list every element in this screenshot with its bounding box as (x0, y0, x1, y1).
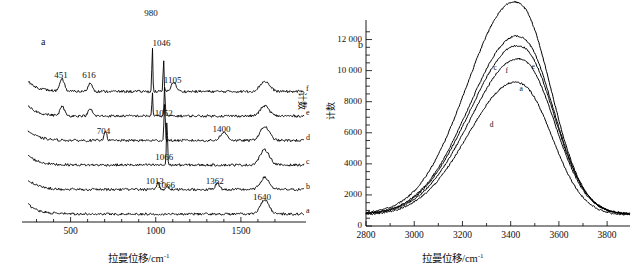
panel-b-x-axis-title-text: 拉曼位移/cm (422, 253, 478, 264)
raman-spectra-figure: a 拉曼位移/cm-1 计数 50010001500abcdef98010464… (0, 0, 633, 272)
panel-a-x-axis-title: 拉曼位移/cm-1 (108, 250, 170, 265)
panel-b-x-axis-title-sup: -1 (478, 252, 484, 260)
panel-a-letter: a (41, 36, 45, 47)
panel-b-x-axis-title: 拉曼位移/cm-1 (422, 250, 484, 265)
panel-a-x-axis-title-text: 拉曼位移/cm (108, 253, 164, 264)
panel-a-x-axis-title-sup: -1 (164, 252, 170, 260)
panel-a: a 拉曼位移/cm-1 计数 50010001500abcdef98010464… (0, 0, 318, 272)
panel-b: b 拉曼位移/cm-1 计数 2800300032003400360038000… (318, 0, 633, 272)
